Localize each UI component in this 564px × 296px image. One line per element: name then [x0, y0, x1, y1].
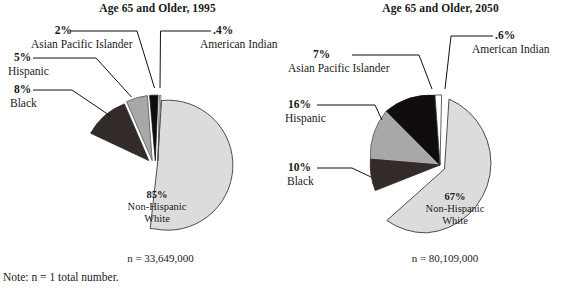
- callout-pct: 2%: [55, 24, 72, 36]
- callout-black-2050-name: Black: [287, 175, 314, 189]
- center-label-1995: 85% Non-Hispanic White: [107, 189, 207, 225]
- n-label-1995: n = 33,649,000: [108, 252, 213, 264]
- callout-name: Hispanic: [8, 65, 49, 77]
- center-label-line1: Non-Hispanic: [107, 201, 207, 213]
- callout-name: Black: [10, 97, 37, 109]
- callout-asian-pacific-islander-1995-name: Asian Pacific Islander: [31, 38, 133, 52]
- center-label-2050: 67% Non-Hispanic White: [405, 191, 505, 227]
- callout-hispanic-1995: 5%: [14, 51, 31, 65]
- callout-asian-pacific-islander-1995: 2%: [0, 24, 72, 38]
- callout-asian-pacific-islander-2050: 7%: [313, 48, 330, 62]
- chart-title-1995: Age 65 and Older, 1995: [55, 2, 260, 14]
- pie-chart-figure: Age 65 and Older, 1995 Age 65 and Older,…: [0, 0, 564, 296]
- callout-name: Asian Pacific Islander: [288, 62, 390, 74]
- callout-pct: .4%: [213, 24, 233, 36]
- callout-pct: .6%: [495, 29, 515, 41]
- leader-line-black-2050: [317, 168, 371, 177]
- callout-name: American Indian: [472, 43, 550, 55]
- figure-footnote: Note: n = 1 total number.: [3, 271, 119, 283]
- callout-hispanic-1995-name: Hispanic: [8, 65, 49, 79]
- callout-pct: 10%: [288, 161, 311, 173]
- callout-asian-pacific-islander-2050-name: Asian Pacific Islander: [288, 62, 390, 76]
- callout-american-indian-1995-name: American Indian: [200, 38, 278, 52]
- center-label-line2: White: [405, 215, 505, 227]
- callout-pct: 8%: [14, 83, 31, 95]
- callout-black-1995: 8%: [14, 83, 31, 97]
- callout-pct: 16%: [288, 98, 311, 110]
- center-label-line2: White: [107, 213, 207, 225]
- callout-hispanic-2050: 16%: [288, 98, 311, 112]
- callout-american-indian-2050: .6%: [495, 29, 515, 43]
- callout-hispanic-2050-name: Hispanic: [285, 112, 326, 126]
- center-label-line1: Non-Hispanic: [405, 203, 505, 215]
- callout-name: Hispanic: [285, 112, 326, 124]
- center-label-pct: 85%: [107, 189, 207, 201]
- callout-black-1995-name: Black: [10, 97, 37, 111]
- callout-pct: 5%: [14, 51, 31, 63]
- leader-line-hispanic-2050: [317, 105, 382, 120]
- center-label-pct: 67%: [405, 191, 505, 203]
- callout-name: Asian Pacific Islander: [31, 38, 133, 50]
- callout-american-indian-1995: .4%: [213, 24, 233, 38]
- callout-name: American Indian: [200, 38, 278, 50]
- callout-name: Black: [287, 175, 314, 187]
- n-label-2050: n = 80,109,000: [390, 252, 500, 264]
- chart-title-2050: Age 65 and Older, 2050: [338, 2, 543, 14]
- callout-black-2050: 10%: [288, 161, 311, 175]
- callout-american-indian-2050-name: American Indian: [472, 43, 550, 57]
- leader-line-black-1995: [33, 90, 111, 116]
- callout-pct: 7%: [313, 48, 330, 60]
